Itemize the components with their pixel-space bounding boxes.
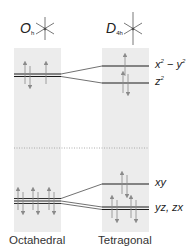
xy-label: xy bbox=[155, 176, 166, 188]
tetragonal-axes-icon bbox=[124, 12, 142, 45]
lower-correlation-lines bbox=[61, 184, 102, 210]
octahedral-title: Octahedral bbox=[9, 234, 65, 246]
tetragonal-title: Tetragonal bbox=[98, 234, 152, 246]
z2-label: z2 bbox=[155, 75, 164, 87]
upper-correlation-lines bbox=[61, 66, 102, 83]
x2-y2-label: x2 − y2 bbox=[155, 58, 185, 70]
octahedral-axes-icon bbox=[36, 17, 54, 40]
oh-point-group-label: Oh bbox=[20, 20, 34, 36]
tetragonal-band bbox=[102, 48, 149, 232]
d4h-point-group-label: D4h bbox=[106, 20, 123, 36]
yz-zx-label: yz, zx bbox=[155, 201, 183, 213]
